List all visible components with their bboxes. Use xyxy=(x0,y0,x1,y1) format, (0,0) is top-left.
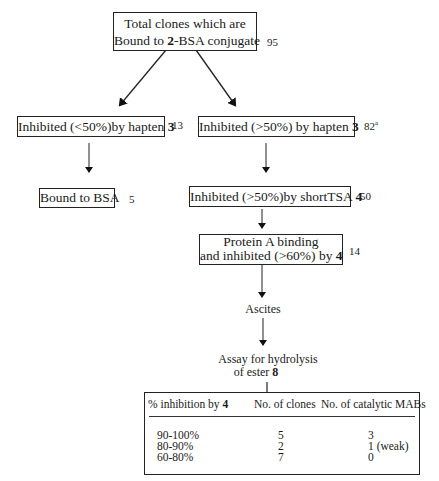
results-table: % inhibition by 4 No. of clones No. of c… xyxy=(144,392,420,475)
header-inhibition: % inhibition by 4 xyxy=(148,398,228,410)
left-branch-node: Inhibited (<50%)by hapten 3 xyxy=(17,116,165,137)
protein-a-node: Protein A binding and inhibited (>60%) b… xyxy=(199,234,343,265)
right-branch-node: Inhibited (>50%) by hapten 3 xyxy=(198,116,355,137)
left-branch-count: 13 xyxy=(172,119,183,131)
root-node: Total clones which are Bound to 2-BSA co… xyxy=(113,12,257,51)
short-tsa-node: Inhibited (>50%)by shortTSA 4 xyxy=(189,186,351,207)
short-tsa-count: 50 xyxy=(360,190,371,202)
header-clones: No. of clones xyxy=(254,398,316,410)
root-count: 95 xyxy=(267,36,278,48)
ascites-label: Ascites xyxy=(238,302,288,316)
root-line2: Bound to 2-BSA conjugate xyxy=(114,32,256,49)
root-line1: Total clones which are xyxy=(114,15,256,32)
protein-a-count: 14 xyxy=(349,245,360,257)
arrow-root-right xyxy=(196,50,235,105)
table-header: % inhibition by 4 No. of clones No. of c… xyxy=(145,398,419,414)
left-leaf-count: 5 xyxy=(129,193,135,205)
left-leaf-node: Bound to BSA xyxy=(39,188,115,208)
assay-label: Assay for hydrolysis of ester 8 xyxy=(213,353,323,379)
header-rule xyxy=(149,416,415,417)
arrow-root-left xyxy=(120,50,166,105)
table-row: 60-80% 7 0 xyxy=(145,451,419,463)
header-catalytic: No. of catalytic MABs xyxy=(321,398,426,410)
right-branch-count: 82a xyxy=(364,119,378,132)
